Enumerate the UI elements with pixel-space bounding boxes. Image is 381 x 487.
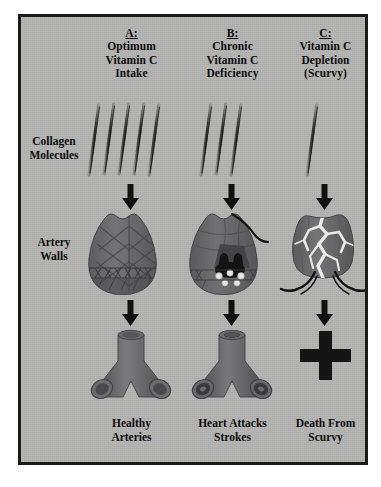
column-b-outcome-line2: Strokes [184, 431, 281, 445]
row-label-artery-line1: Artery [23, 236, 85, 250]
column-a-outcome-line1: Healthy [83, 417, 180, 431]
row-label-artery-walls: Artery Walls [23, 236, 85, 263]
column-c-collagen-strands [277, 101, 368, 181]
column-a-heading-line2: Vitamin C [83, 54, 180, 67]
column-c-heading-line1: Vitamin C [277, 40, 368, 53]
column-a-arrow-to-artery [83, 184, 180, 210]
column-c-heading: C: Vitamin C Depletion (Scurvy) [277, 27, 368, 81]
column-b-heading: B: Chronic Vitamin C Deficiency [184, 27, 281, 81]
column-c-arrow-to-outcome [277, 300, 368, 326]
column-a-arrow-to-vessel [83, 300, 180, 326]
column-b-heading-line1: Chronic [184, 40, 281, 53]
row-label-collagen-molecules: Collagen Molecules [23, 135, 85, 162]
column-b-arrow-to-artery [184, 184, 281, 210]
column-b-heading-line2: Vitamin C [184, 54, 281, 67]
column-a-collagen-strands [83, 101, 180, 181]
column-a-letter: A: [83, 27, 180, 40]
column-a-artery-wall-cross-section [83, 210, 180, 300]
figure-frame: Collagen Molecules Artery Walls A: Optim… [18, 14, 368, 465]
column-c-letter: C: [277, 27, 368, 40]
column-a-heading: A: Optimum Vitamin C Intake [83, 27, 180, 81]
column-c-death-cross-icon [277, 329, 368, 389]
column-b-collagen-strands [184, 101, 281, 181]
column-b-outcome: Heart Attacks Strokes [184, 417, 281, 444]
column-c-arrow-to-artery [277, 184, 368, 210]
column-c-outcome: Death From Scurvy [277, 417, 368, 444]
column-b-branching-artery [184, 325, 281, 403]
column-b-artery-wall-cross-section [184, 210, 281, 300]
row-label-collagen-line2: Molecules [23, 149, 85, 163]
column-b-heading-line3: Deficiency [184, 67, 281, 80]
column-c-outcome-line2: Scurvy [277, 431, 368, 445]
column-a-heading-line3: Intake [83, 67, 180, 80]
row-label-collagen-line1: Collagen [23, 135, 85, 149]
column-a-heading-line1: Optimum [83, 40, 180, 53]
row-label-artery-line2: Walls [23, 250, 85, 264]
column-a-outcome: Healthy Arteries [83, 417, 180, 444]
column-b-outcome-line1: Heart Attacks [184, 417, 281, 431]
column-c-heading-line2: Depletion [277, 54, 368, 67]
column-c-outcome-line1: Death From [277, 417, 368, 431]
column-b-letter: B: [184, 27, 281, 40]
column-c-artery-wall-cross-section [277, 210, 368, 300]
column-b-arrow-to-vessel [184, 300, 281, 326]
column-a-outcome-line2: Arteries [83, 431, 180, 445]
column-a-branching-artery [83, 325, 180, 403]
column-c-heading-line3: (Scurvy) [277, 67, 368, 80]
